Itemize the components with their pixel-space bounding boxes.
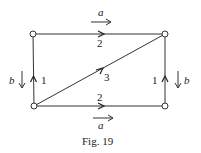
node-top-right: [162, 31, 168, 37]
node-top-left: [30, 31, 36, 37]
figure-caption: Fig. 19: [82, 135, 114, 147]
label-top-edge: 2: [97, 37, 103, 49]
label-right-edge: 1: [152, 74, 158, 86]
node-bottom-left: [31, 103, 37, 109]
arrow-right-b-icon: [175, 71, 181, 88]
label-top-a: a: [98, 6, 104, 18]
edge-left: [33, 34, 34, 106]
label-right-b: b: [184, 74, 190, 86]
node-bottom-right: [162, 103, 168, 109]
label-left-b: b: [9, 74, 15, 86]
label-left-edge: 1: [41, 74, 47, 86]
circuit-diagram: a 2 3 2 a b 1 1 b Fig. 19: [0, 0, 201, 153]
label-diagonal-edge: 3: [104, 71, 110, 83]
label-bottom-a: a: [98, 119, 104, 131]
arrow-top-a-icon: [91, 19, 111, 25]
label-bottom-edge: 2: [97, 91, 103, 103]
arrow-left-b-icon: [19, 71, 25, 88]
